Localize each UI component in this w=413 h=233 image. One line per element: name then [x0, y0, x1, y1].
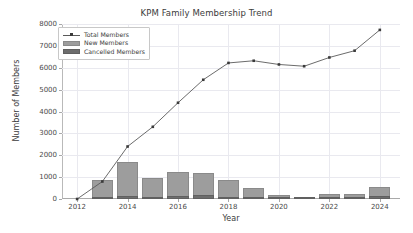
x-tick-mark: [329, 199, 330, 202]
legend-label: New Members: [84, 39, 128, 47]
total-members-marker: [126, 145, 129, 148]
bar-swatch-dark-icon: [63, 49, 80, 54]
total-members-marker: [101, 180, 104, 183]
total-members-marker: [177, 101, 180, 104]
x-tick-label: 2016: [169, 203, 187, 211]
y-tick-label: 0: [53, 195, 57, 203]
y-tick-label: 5000: [39, 86, 57, 94]
y-tick-label: 4000: [39, 108, 57, 116]
y-tick-label: 6000: [39, 64, 57, 72]
y-tick-label: 7000: [39, 42, 57, 50]
x-tick-mark: [228, 199, 229, 202]
total-members-marker: [353, 49, 356, 52]
x-tick-label: 2022: [320, 203, 338, 211]
y-tick-label: 2000: [39, 151, 57, 159]
y-tick-label: 1000: [39, 173, 57, 181]
x-axis-label: Year: [62, 214, 400, 223]
total-members-marker: [152, 126, 155, 129]
x-tick-label: 2024: [371, 203, 389, 211]
x-tick-label: 2014: [119, 203, 137, 211]
legend-item-total-members: Total Members: [63, 31, 145, 39]
total-members-marker: [278, 63, 281, 66]
legend-label: Cancelled Members: [84, 48, 145, 56]
total-members-marker: [202, 78, 205, 81]
membership-trend-chart: KPM Family Membership Trend Number of Me…: [0, 0, 413, 233]
total-members-marker: [76, 198, 79, 201]
chart-title: KPM Family Membership Trend: [0, 8, 413, 18]
x-tick-mark: [279, 199, 280, 202]
line-marker-swatch-icon: [63, 31, 80, 39]
x-tick-label: 2018: [220, 203, 238, 211]
total-members-marker: [227, 62, 230, 65]
chart-legend: Total Members New Members Cancelled Memb…: [58, 27, 150, 60]
bar-swatch-light-icon: [63, 41, 80, 46]
legend-label: Total Members: [84, 31, 129, 39]
y-tick-label: 3000: [39, 129, 57, 137]
x-tick-label: 2012: [68, 203, 86, 211]
total-members-marker: [379, 29, 382, 32]
x-tick-mark: [128, 199, 129, 202]
y-tick-mark: [59, 199, 62, 200]
x-tick-mark: [178, 199, 179, 202]
legend-item-new-members: New Members: [63, 39, 145, 47]
total-members-marker: [303, 65, 306, 68]
x-tick-label: 2020: [270, 203, 288, 211]
y-axis-label: Number of Members: [12, 46, 21, 156]
legend-item-cancelled-members: Cancelled Members: [63, 48, 145, 56]
y-tick-label: 8000: [39, 20, 57, 28]
total-members-marker: [328, 56, 331, 59]
x-tick-mark: [380, 199, 381, 202]
total-members-marker: [252, 59, 255, 62]
